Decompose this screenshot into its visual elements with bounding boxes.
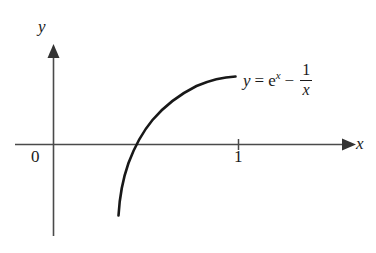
equation-fraction: 1 x	[300, 62, 312, 99]
x-tick-1-label: 1	[234, 148, 243, 165]
origin-label: 0	[31, 148, 40, 165]
plot-canvas	[0, 0, 376, 253]
equation-base-e: e	[268, 72, 276, 89]
equation-annotation: y = ex − 1 x	[243, 62, 312, 99]
equation-lhs: y	[243, 72, 251, 89]
fraction-numerator: 1	[300, 62, 312, 79]
x-axis-label: x	[356, 135, 364, 152]
fraction-denominator: x	[301, 82, 312, 99]
equation-minus-sign: −	[285, 72, 295, 89]
equation-exponent-x: x	[276, 70, 281, 81]
y-axis-arrowhead	[48, 44, 60, 58]
function-graph-figure: y x 0 1 y = ex − 1 x	[0, 0, 376, 253]
function-curve	[119, 77, 236, 216]
x-axis-arrowhead	[342, 139, 356, 151]
y-axis-label: y	[38, 18, 46, 35]
equation-equals-sign: =	[255, 72, 265, 89]
